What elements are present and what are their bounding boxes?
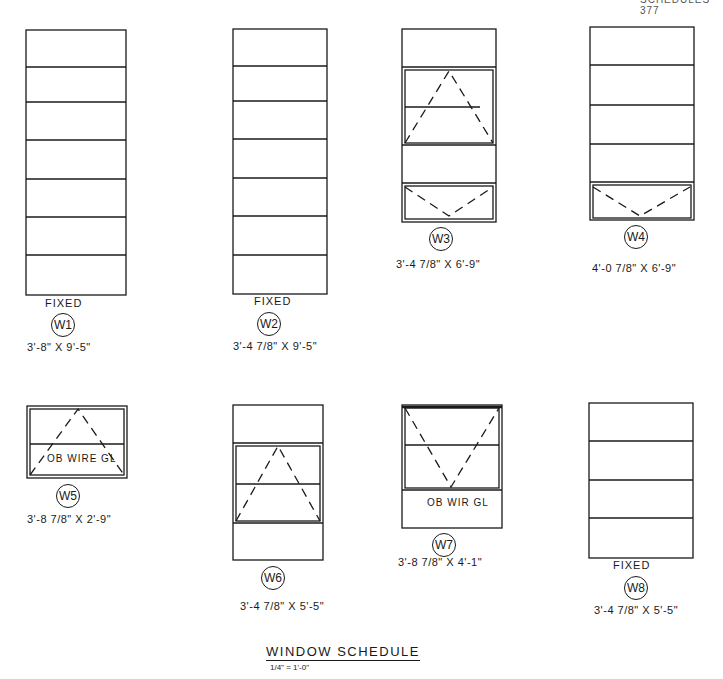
window-w3-elevation (402, 29, 496, 222)
window-w2-elevation (233, 29, 327, 294)
window-schedule-drawing (0, 0, 723, 679)
window-w5-size: 3'-8 7/8" X 2'-9" (27, 513, 111, 525)
window-w7-elevation (402, 405, 502, 528)
window-w1-size: 3'-8" X 9'-5" (27, 341, 91, 353)
window-w3-size: 3'-4 7/8" X 6'-9" (396, 258, 480, 270)
window-w1-elevation (26, 30, 126, 295)
window-w7-tag: W7 (432, 533, 456, 557)
window-w7-glass-note: OB WIR GL (427, 497, 489, 508)
window-w6-tag: W6 (261, 566, 285, 590)
window-w8-size: 3'-4 7/8" X 5'-5" (594, 604, 678, 616)
window-w1-type: FIXED (45, 297, 82, 309)
window-w5-elevation (27, 406, 127, 478)
window-w2-size: 3'-4 7/8" X 9'-5" (233, 340, 317, 352)
window-w1-tag: W1 (51, 313, 75, 337)
window-w8-type: FIXED (613, 559, 650, 571)
window-w6-elevation (233, 405, 323, 560)
window-w4-size: 4'-0 7/8" X 6'-9" (592, 262, 676, 274)
drawing-scale: 1/4" = 1'-0" (270, 663, 309, 672)
window-w3-tag: W3 (429, 227, 453, 251)
window-w2-tag: W2 (257, 312, 281, 336)
window-w6-size: 3'-4 7/8" X 5'-5" (240, 600, 324, 612)
window-w4-elevation (590, 27, 694, 220)
window-w2-type: FIXED (254, 295, 291, 307)
window-w5-tag: W5 (56, 484, 80, 508)
drawing-title: WINDOW SCHEDULE (266, 644, 420, 661)
window-w8-elevation (589, 403, 693, 558)
window-w7-size: 3'-8 7/8" X 4'-1" (398, 556, 482, 568)
window-w4-tag: W4 (624, 225, 648, 249)
window-w5-glass-note: OB WIRE GL (47, 453, 116, 464)
window-w8-tag: W8 (624, 576, 648, 600)
